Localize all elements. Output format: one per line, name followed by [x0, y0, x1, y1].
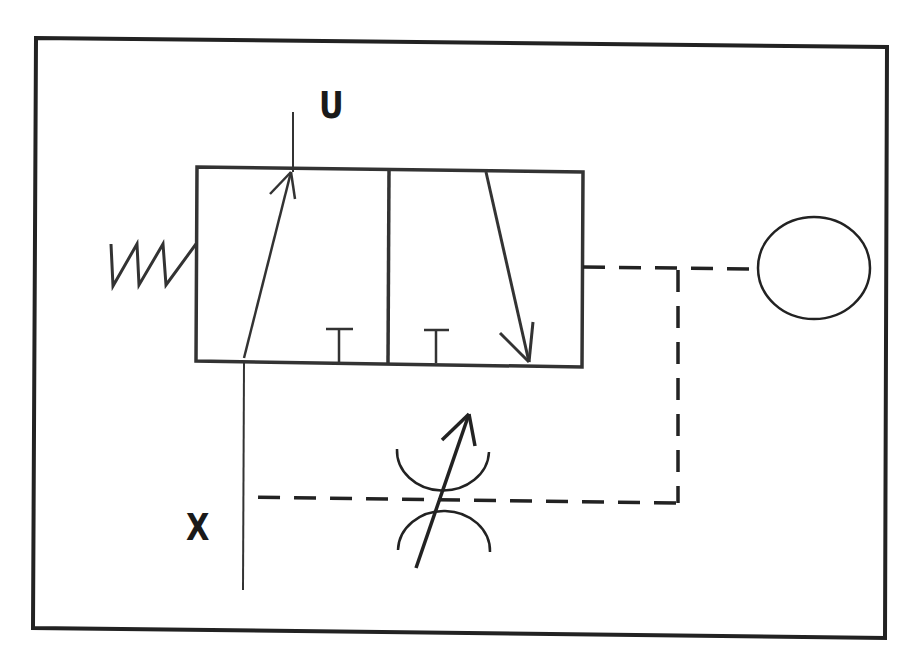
- flow-arrow-down-icon: [486, 172, 533, 362]
- output-port-label: U: [319, 86, 344, 124]
- valve-body: [196, 167, 583, 367]
- reservoir-icon: [758, 217, 870, 319]
- flow-arrow-up-icon: [244, 172, 295, 358]
- supply-line: [243, 362, 244, 590]
- schematic-canvas: [0, 0, 917, 667]
- spring-icon: [111, 244, 196, 286]
- pilot-line: [245, 267, 757, 503]
- input-port-label: X: [186, 508, 209, 546]
- outer-frame: [33, 38, 887, 638]
